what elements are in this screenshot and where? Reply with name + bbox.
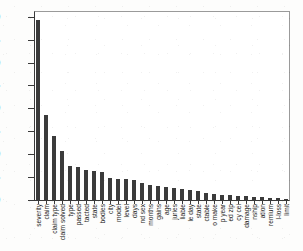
- x-axis-tick-label: o make: [211, 204, 218, 226]
- x-axis-label-slot: gains: [154, 204, 162, 251]
- x-axis-label-slot: state: [194, 204, 202, 251]
- x-axis-label-slot: cy cei: [234, 204, 242, 251]
- x-axis-tick-label: claim type: [51, 204, 58, 234]
- bar: [172, 188, 177, 200]
- bar-series: [34, 11, 290, 200]
- bar: [196, 191, 201, 200]
- x-axis-tick-label: tacted: [83, 204, 90, 222]
- x-axis-label-slot: claim type: [50, 204, 58, 251]
- x-axis-tick-label: ed zip: [227, 204, 234, 222]
- bar: [100, 172, 105, 200]
- x-axis-tick-label: state: [195, 204, 202, 218]
- x-axis-label-slot: tacted: [82, 204, 90, 251]
- x-axis-label-slot: juries: [170, 204, 178, 251]
- x-axis-label-slot: days: [130, 204, 138, 251]
- bar: [188, 190, 193, 200]
- x-axis-label-slot: l-loss: [274, 204, 282, 251]
- bar: [180, 189, 185, 200]
- x-axis-tick-label: l-loss: [275, 204, 282, 219]
- x-axis-label-slot: passed: [74, 204, 82, 251]
- bar: [156, 186, 161, 200]
- bar: [60, 151, 65, 200]
- x-axis-label-slot: damage: [242, 204, 250, 251]
- x-axis-tick-label: level: [123, 204, 130, 218]
- x-axis-label-slot: o make: [210, 204, 218, 251]
- x-axis-label-slot: model: [114, 204, 122, 251]
- bar: [204, 193, 209, 200]
- x-axis-label-slot: city: [106, 204, 114, 251]
- bar: [36, 20, 41, 200]
- x-axis-label-slot: le day: [186, 204, 194, 251]
- x-axis-tick-label: liable: [179, 204, 186, 219]
- x-axis-tick-label: p year: [219, 204, 226, 222]
- bar: [124, 179, 129, 200]
- x-axis-tick-label: days: [131, 204, 138, 218]
- x-axis-label-slot: claim solved: [58, 204, 66, 251]
- x-axis-label-slot: remium: [266, 204, 274, 251]
- bar: [148, 185, 153, 200]
- x-axis-tick-label: severity: [35, 204, 42, 227]
- x-axis-label-slot: claim: [42, 204, 50, 251]
- x-axis-tick-label: juries: [171, 204, 178, 220]
- x-axis-tick-label: claim solved: [59, 204, 66, 240]
- x-axis-tick-label: bodies: [99, 204, 106, 223]
- bar: [44, 115, 49, 200]
- x-axis-tick-label: damage: [243, 204, 250, 228]
- x-axis-tick-label: ation: [259, 204, 266, 218]
- bar: [108, 178, 113, 200]
- bar: [164, 187, 169, 200]
- x-axis-label-slot: level: [122, 204, 130, 251]
- x-axis-tick-label: passed: [75, 204, 82, 225]
- x-axis-label-slot: limit: [282, 204, 290, 251]
- bar: [92, 171, 97, 200]
- x-axis-label-slot: months: [146, 204, 154, 251]
- bar: [140, 183, 145, 200]
- x-axis-label-slot: ation: [258, 204, 266, 251]
- x-axis-label-slot: ed zip: [226, 204, 234, 251]
- bar: [68, 166, 73, 200]
- x-axis-label-slot: severity: [34, 204, 42, 251]
- x-axis-tick-label: cy cei: [235, 204, 242, 221]
- x-axis-tick-label: type: [67, 204, 74, 216]
- x-axis-tick-label: gains: [155, 204, 162, 220]
- x-axis-tick-label: age: [163, 204, 170, 215]
- x-axis-tick-label: claim: [43, 204, 50, 219]
- x-axis-labels: severityclaimclaim typeclaim solvedtypep…: [34, 204, 290, 251]
- x-axis-tick-label: nd sex: [139, 204, 146, 223]
- x-axis-tick-label: months: [147, 204, 154, 226]
- x-axis-label-slot: bodies: [98, 204, 106, 251]
- x-axis-tick-label: state: [91, 204, 98, 218]
- x-axis-label-slot: type: [66, 204, 74, 251]
- x-axis-tick-label: model: [115, 204, 122, 222]
- x-axis-tick-label: ctable: [203, 204, 210, 222]
- chart-figure: 0.000.050.100.150.200.250.300.350.40 sev…: [0, 0, 303, 251]
- y-axis: 0.000.050.100.150.200.250.300.350.40: [0, 0, 34, 212]
- bar: [76, 167, 81, 200]
- x-axis-label-slot: ctable: [202, 204, 210, 251]
- bar: [84, 170, 89, 200]
- x-axis-label-slot: nd sex: [138, 204, 146, 251]
- bar: [52, 136, 57, 200]
- bar: [116, 179, 121, 200]
- x-axis-label-slot: nship: [250, 204, 258, 251]
- x-axis-tick-label: limit: [283, 204, 290, 216]
- x-axis-label-slot: age: [162, 204, 170, 251]
- x-axis-tick-label: city: [107, 204, 114, 214]
- x-axis-label-slot: liable: [178, 204, 186, 251]
- x-axis-tick-label: remium: [267, 204, 274, 226]
- x-axis-tick-label: le day: [187, 204, 194, 222]
- x-axis-label-slot: state: [90, 204, 98, 251]
- x-axis-tick-label: nship: [251, 204, 258, 220]
- x-axis-label-slot: p year: [218, 204, 226, 251]
- bar: [132, 180, 137, 200]
